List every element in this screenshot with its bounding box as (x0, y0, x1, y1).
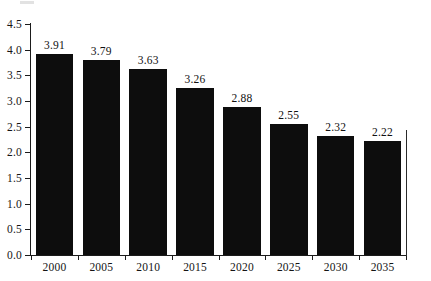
bar (176, 88, 214, 255)
y-axis-tick (25, 101, 30, 102)
bar-value-label: 2.55 (278, 109, 299, 121)
y-axis-tick (25, 127, 30, 128)
bar-value-label: 2.32 (325, 121, 346, 133)
x-axis-tick (406, 256, 407, 260)
x-axis-tick (265, 256, 266, 260)
y-axis-tick-label: 0.5 (7, 223, 22, 235)
x-axis-tick-label: 2030 (324, 261, 348, 273)
bar-value-label: 3.79 (91, 45, 112, 57)
bar (129, 69, 167, 255)
bar-value-label: 3.26 (185, 73, 206, 85)
y-axis-tick (25, 75, 30, 76)
bar-value-label: 3.63 (138, 54, 159, 66)
x-axis-tick-label: 2025 (277, 261, 301, 273)
bar-value-label: 2.88 (231, 92, 252, 104)
x-axis-tick-label: 2035 (371, 261, 395, 273)
bar (36, 54, 74, 255)
y-axis-tick-label: 4.0 (7, 44, 22, 56)
x-axis-tick (312, 256, 313, 260)
y-axis-tick (25, 50, 30, 51)
x-axis-tick-label: 2010 (136, 261, 160, 273)
y-axis-tick-label: 1.5 (7, 172, 22, 184)
y-axis-tick-label: 3.5 (7, 69, 22, 81)
y-axis-right-line (406, 130, 407, 256)
bar-chart: 0.00.51.01.52.02.53.03.54.04.5 3.913.793… (0, 0, 431, 281)
x-axis-tick (172, 256, 173, 260)
x-axis-tick (78, 256, 79, 260)
x-axis-tick (219, 256, 220, 260)
x-axis-tick-label: 2005 (89, 261, 113, 273)
bar-value-label: 2.22 (372, 126, 393, 138)
y-axis-tick (25, 24, 30, 25)
x-axis-tick-label: 2020 (230, 261, 254, 273)
y-axis-tick-label: 0.0 (7, 249, 22, 261)
y-axis-tick (25, 255, 30, 256)
y-axis-tick-label: 2.5 (7, 121, 22, 133)
x-axis-tick (125, 256, 126, 260)
bar (364, 141, 402, 255)
x-axis-tick-label: 2015 (183, 261, 207, 273)
x-axis-tick-label: 2000 (43, 261, 67, 273)
y-axis-tick-label: 2.0 (7, 146, 22, 158)
y-axis-tick (25, 152, 30, 153)
y-axis-tick-label: 3.0 (7, 95, 22, 107)
scan-artifact (20, 1, 34, 4)
bar (83, 60, 121, 255)
bar (317, 136, 355, 255)
x-axis-tick (31, 256, 32, 260)
bar-value-label: 3.91 (44, 39, 65, 51)
y-axis-tick (25, 229, 30, 230)
bar (223, 107, 261, 255)
y-axis-tick-label: 4.5 (7, 18, 22, 30)
bar (270, 124, 308, 255)
y-axis-tick (25, 178, 30, 179)
plot-area (31, 24, 406, 255)
x-axis-tick (359, 256, 360, 260)
y-axis-tick (25, 204, 30, 205)
y-axis-tick-label: 1.0 (7, 198, 22, 210)
